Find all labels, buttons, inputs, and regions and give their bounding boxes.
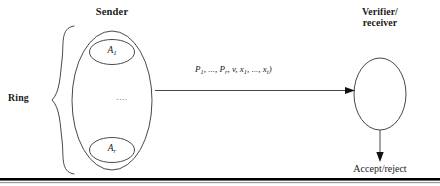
verifier-title-line-1: Verifier/ [362, 6, 398, 17]
sender-title: Sender [0, 6, 224, 18]
ring-brace [52, 26, 74, 174]
message-separator-2: , ..., [247, 64, 261, 74]
member-label-ar: Ar [92, 143, 132, 155]
message-close-paren: ) [269, 64, 272, 74]
ring-group-label: Ring [8, 93, 29, 104]
message-arrow-head [345, 87, 355, 94]
message-separator-1: , ..., [204, 64, 218, 74]
member-ar-subscript: r [114, 147, 117, 154]
outcome-label: Accept/reject [330, 163, 430, 174]
bottom-rule [0, 178, 440, 181]
member-label-a1: A1 [92, 45, 132, 56]
outcome-arrow-head [376, 152, 383, 162]
verifier-title-line-2: receiver [330, 18, 430, 29]
verifier-title: Verifier/receiver [330, 7, 430, 29]
members-ellipsis: .... [92, 92, 152, 102]
message-p-last-subscript: r [225, 68, 228, 75]
message-tuple-label: P1, ..., Pr, v, x1, ..., xt) [195, 64, 272, 75]
verifier-circle [354, 58, 406, 130]
bottom-rule-hairline [0, 182, 440, 183]
message-v: v [232, 64, 235, 74]
diagram-root: Sender Ring A1 .... Ar P1, ..., Pr, v, x… [0, 0, 440, 186]
member-a1-subscript: 1 [113, 49, 116, 56]
